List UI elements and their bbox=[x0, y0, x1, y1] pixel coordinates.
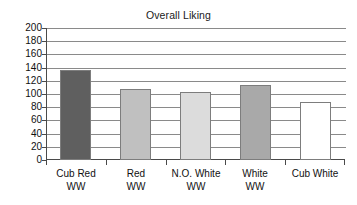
y-axis-tick-label: 200 bbox=[0, 23, 42, 33]
y-axis-tick-label: 60 bbox=[0, 115, 42, 125]
x-axis-category-label: Cub RedWW bbox=[46, 167, 106, 193]
y-axis-tick-label: 120 bbox=[0, 76, 42, 86]
category-label-line2: WW bbox=[46, 180, 106, 193]
x-axis-category-label: RedWW bbox=[106, 167, 166, 193]
bar bbox=[180, 92, 211, 160]
x-axis-tick bbox=[225, 160, 226, 165]
y-axis-tick-label: 100 bbox=[0, 89, 42, 99]
x-axis-category-label: WhiteWW bbox=[225, 167, 285, 193]
category-label-line1: Red bbox=[127, 168, 145, 179]
bar bbox=[120, 89, 151, 160]
category-label-line1: Cub White bbox=[292, 168, 339, 179]
x-axis-labels: Cub RedWWRedWWN.O. WhiteWWWhiteWWCub Whi… bbox=[46, 167, 345, 203]
y-axis-tick-label: 160 bbox=[0, 49, 42, 59]
x-axis-tick bbox=[344, 160, 345, 165]
y-axis-tick-label: 180 bbox=[0, 36, 42, 46]
x-axis-ticks bbox=[46, 160, 345, 165]
bar bbox=[240, 85, 271, 160]
bar bbox=[60, 70, 91, 160]
x-axis-tick bbox=[285, 160, 286, 165]
x-axis-category-label: Cub White bbox=[285, 167, 345, 180]
category-label-line1: White bbox=[242, 168, 268, 179]
y-axis-tick-label: 40 bbox=[0, 129, 42, 139]
category-label-line2: WW bbox=[106, 180, 166, 193]
y-axis: 200180160140120100806040200 bbox=[0, 28, 42, 160]
x-axis-tick bbox=[166, 160, 167, 165]
bars-layer bbox=[46, 28, 345, 160]
y-axis-tick-label: 20 bbox=[0, 142, 42, 152]
x-axis-category-label: N.O. WhiteWW bbox=[166, 167, 226, 193]
x-axis-tick bbox=[106, 160, 107, 165]
category-label-line2: WW bbox=[166, 180, 226, 193]
category-label-line2: WW bbox=[225, 180, 285, 193]
category-label-line1: N.O. White bbox=[172, 168, 221, 179]
y-axis-tick-label: 80 bbox=[0, 102, 42, 112]
category-label-line1: Cub Red bbox=[56, 168, 95, 179]
y-axis-tick-label: 140 bbox=[0, 63, 42, 73]
y-axis-tick-label: 0 bbox=[0, 155, 42, 165]
bar bbox=[300, 102, 331, 160]
chart-title: Overall Liking bbox=[0, 9, 357, 21]
x-axis-tick bbox=[46, 160, 47, 165]
bar-chart: Overall Liking 2001801601401201008060402… bbox=[0, 0, 357, 205]
